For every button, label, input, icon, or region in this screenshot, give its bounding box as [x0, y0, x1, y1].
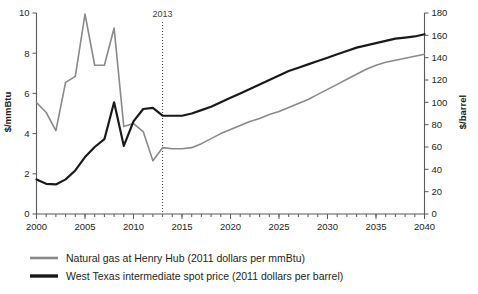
x-tick-label: 2015 — [171, 221, 192, 232]
y-right-tick-label: 60 — [432, 141, 443, 152]
projection-divider-group: 2013 — [153, 9, 173, 214]
chart-figure: 200020052010201520202025203020352040 024… — [0, 0, 478, 294]
y-right-tick-label: 40 — [432, 164, 443, 175]
series-line-wti — [37, 34, 425, 184]
legend-label-natural-gas: Natural gas at Henry Hub (2011 dollars p… — [66, 252, 305, 264]
series-line-natural-gas — [37, 14, 425, 161]
x-tick-label: 2030 — [317, 221, 338, 232]
y-left-tick-label: 8 — [24, 48, 29, 59]
y-right-tick-label: 100 — [432, 97, 448, 108]
y-axis-left-ticks — [33, 13, 37, 214]
x-tick-label: 2025 — [268, 221, 289, 232]
x-axis-tick-labels: 200020052010201520202025203020352040 — [26, 221, 435, 232]
x-tick-label: 2010 — [123, 221, 144, 232]
price-projection-line-chart: 200020052010201520202025203020352040 024… — [0, 0, 478, 294]
y-left-tick-label: 0 — [24, 208, 29, 219]
y-axis-right-ticks — [425, 13, 429, 214]
y-right-tick-label: 180 — [432, 7, 448, 18]
y-axis-left-tick-labels: 0246810 — [19, 7, 30, 219]
y-left-tick-label: 4 — [24, 128, 29, 139]
y-right-tick-label: 0 — [432, 208, 437, 219]
y-left-tick-label: 2 — [24, 168, 29, 179]
x-tick-label: 2035 — [365, 221, 386, 232]
y-axis-left-title: $/mmBtu — [2, 91, 13, 132]
y-right-tick-label: 160 — [432, 30, 448, 41]
chart-legend: Natural gas at Henry Hub (2011 dollars p… — [30, 252, 343, 282]
y-right-tick-label: 20 — [432, 186, 443, 197]
x-tick-label: 2020 — [220, 221, 241, 232]
y-axis-right-tick-labels: 020406080100120140160180 — [432, 7, 448, 219]
y-right-tick-label: 140 — [432, 52, 448, 63]
y-left-tick-label: 6 — [24, 88, 29, 99]
x-tick-label: 2005 — [74, 221, 95, 232]
legend-label-wti: West Texas intermediate spot price (2011… — [66, 270, 343, 282]
x-tick-label: 2000 — [26, 221, 47, 232]
y-left-tick-label: 10 — [19, 7, 30, 18]
y-axis-right-title: $/barrel — [457, 95, 468, 129]
divider-year-label: 2013 — [153, 9, 173, 19]
x-tick-label: 2040 — [414, 221, 435, 232]
y-right-tick-label: 80 — [432, 119, 443, 130]
y-right-tick-label: 120 — [432, 74, 448, 85]
